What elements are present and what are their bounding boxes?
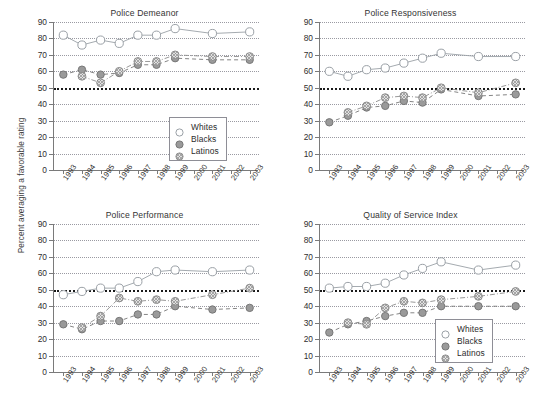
legend-item-whites[interactable]: Whites [441, 323, 485, 335]
data-point-whites [96, 36, 104, 44]
legend: WhitesBlacksLatinos [435, 319, 493, 363]
y-axis-tick-mark [49, 104, 53, 105]
data-point-blacks [512, 91, 519, 98]
panel-title: Police Demeanor [22, 8, 267, 18]
data-point-whites [512, 261, 520, 269]
data-point-whites [362, 282, 370, 290]
data-point-latinos [344, 319, 352, 327]
y-axis-tick-label: 90 [291, 18, 313, 26]
y-axis-tick-mark [315, 38, 319, 39]
filled-circle-icon [441, 337, 450, 346]
data-point-whites [59, 31, 67, 39]
y-axis-tick-mark [49, 38, 53, 39]
y-axis-tick-mark [315, 273, 319, 274]
data-point-whites [400, 59, 408, 67]
y-axis-tick-label: 0 [25, 368, 47, 376]
y-axis-tick-mark [49, 339, 53, 340]
y-axis-tick-label: 50 [291, 286, 313, 294]
y-axis-tick-mark [49, 137, 53, 138]
legend-item-latinos[interactable]: Latinos [175, 145, 219, 157]
y-axis-tick-label: 70 [291, 253, 313, 261]
data-point-latinos [400, 92, 408, 100]
data-point-whites [171, 24, 179, 32]
data-point-latinos [171, 297, 179, 305]
y-axis-tick-label: 60 [291, 269, 313, 277]
y-axis-tick-label: 50 [25, 84, 47, 92]
legend-item-latinos[interactable]: Latinos [441, 347, 485, 359]
y-axis-tick-mark [315, 55, 319, 56]
y-axis-tick-mark [315, 104, 319, 105]
y-axis-tick-label: 50 [291, 84, 313, 92]
y-axis-tick-mark [315, 290, 319, 291]
data-point-blacks [209, 306, 216, 313]
legend-label: Whites [191, 122, 217, 132]
y-axis-tick-label: 20 [25, 335, 47, 343]
legend: WhitesBlacksLatinos [169, 117, 227, 161]
y-axis-tick-label: 90 [291, 220, 313, 228]
series-layer [320, 224, 537, 413]
y-axis-tick-label: 0 [291, 166, 313, 174]
open-circle-icon [441, 325, 450, 334]
y-axis-tick-label: 40 [291, 302, 313, 310]
data-point-latinos [475, 292, 483, 300]
y-axis-tick-label: 80 [291, 236, 313, 244]
data-point-whites [474, 52, 482, 60]
data-point-whites [152, 268, 160, 276]
y-axis-tick-mark [49, 356, 53, 357]
data-point-whites [246, 266, 254, 274]
data-point-whites [246, 28, 254, 36]
data-point-blacks [60, 71, 67, 78]
y-axis-tick-label: 30 [291, 116, 313, 124]
data-point-latinos [419, 299, 427, 307]
y-axis-tick-mark [315, 372, 319, 373]
y-axis-tick-label: 40 [291, 100, 313, 108]
data-point-whites [381, 279, 389, 287]
data-point-whites [325, 67, 333, 75]
data-point-whites [344, 72, 352, 80]
y-axis-tick-mark [315, 224, 319, 225]
data-point-whites [171, 266, 179, 274]
y-axis-tick-mark [49, 22, 53, 23]
data-point-whites [115, 284, 123, 292]
y-axis-tick-mark [49, 154, 53, 155]
y-axis-tick-label: 60 [25, 269, 47, 277]
y-axis-tick-label: 0 [25, 166, 47, 174]
y-axis-tick-mark [315, 170, 319, 171]
data-point-latinos [400, 297, 408, 305]
data-point-blacks [153, 311, 160, 318]
plot-area: 0102030405060708090199319941995199619971… [288, 22, 533, 230]
data-point-blacks [400, 309, 407, 316]
data-point-latinos [363, 102, 371, 110]
data-point-latinos [97, 79, 105, 87]
series-line-latinos [82, 288, 250, 327]
data-point-whites [400, 271, 408, 279]
data-point-blacks [382, 102, 389, 109]
y-axis-tick-label: 0 [291, 368, 313, 376]
data-point-blacks [116, 317, 123, 324]
data-point-blacks [475, 303, 482, 310]
y-axis-tick-mark [315, 154, 319, 155]
data-point-latinos [153, 58, 161, 66]
data-point-latinos [363, 320, 371, 328]
y-axis-tick-label: 70 [291, 51, 313, 59]
data-point-latinos [246, 53, 254, 61]
y-axis-tick-label: 40 [25, 302, 47, 310]
legend-item-whites[interactable]: Whites [175, 121, 219, 133]
y-axis-tick-mark [49, 323, 53, 324]
y-axis-tick-mark [315, 257, 319, 258]
y-axis-tick-mark [315, 306, 319, 307]
data-point-whites [208, 29, 216, 37]
data-point-latinos [97, 312, 105, 320]
data-point-blacks [326, 119, 333, 126]
data-point-whites [134, 31, 142, 39]
data-point-blacks [326, 329, 333, 336]
data-point-whites [78, 41, 86, 49]
legend-item-blacks[interactable]: Blacks [175, 133, 219, 145]
data-point-latinos [419, 94, 427, 102]
y-axis-tick-label: 60 [25, 67, 47, 75]
y-axis-tick-mark [315, 88, 319, 89]
legend-item-blacks[interactable]: Blacks [441, 335, 485, 347]
data-point-whites [512, 52, 520, 60]
series-line-latinos [348, 83, 516, 113]
data-point-whites [152, 31, 160, 39]
